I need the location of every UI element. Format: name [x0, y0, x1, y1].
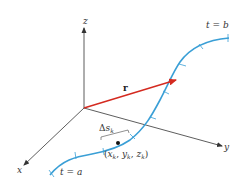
sample-point: (xk, yk, zk) [104, 141, 148, 160]
curve-start-label: t = a [60, 167, 82, 177]
arc-length-segment: Δsk [99, 123, 129, 140]
x-axis-label: x [17, 165, 22, 175]
space-curve-diagram: z y x r Δsk (xk, yk, zk [0, 0, 247, 185]
curve-end-label: t = b [206, 20, 229, 30]
vector-label: r [123, 83, 128, 93]
point-label: (xk, yk, zk) [104, 149, 148, 160]
point-marker [116, 141, 120, 145]
x-axis [24, 108, 84, 165]
y-axis-label: y [223, 142, 230, 152]
delta-s-label: Δsk [99, 123, 114, 134]
z-axis-label: z [82, 16, 88, 26]
